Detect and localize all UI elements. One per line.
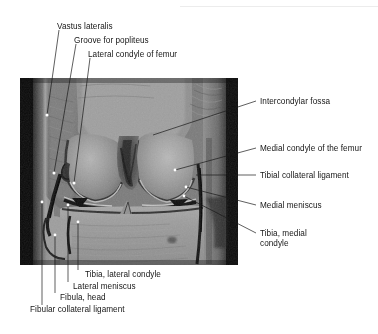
label-tibial-collateral-ligament: Tibial collateral ligament — [260, 171, 349, 181]
label-vastus-lateralis: Vastus lateralis — [57, 22, 113, 32]
label-fibular-collateral-ligament: Fibular collateral ligament — [30, 305, 125, 315]
label-groove-for-popliteus: Groove for popliteus — [74, 36, 149, 46]
label-intercondylar-fossa: Intercondylar fossa — [260, 97, 330, 107]
label-tibia-lateral-condyle: Tibia, lateral condyle — [85, 270, 161, 280]
label-lateral-condyle-of-femur: Lateral condyle of femur — [88, 50, 177, 60]
label-tibia-medial-condyle: Tibia, medial condyle — [260, 229, 330, 248]
mri-image-panel — [20, 78, 238, 265]
label-medial-meniscus: Medial meniscus — [260, 201, 322, 211]
label-fibula-head: Fibula, head — [60, 293, 106, 303]
scan-artifact-line — [180, 6, 378, 7]
label-medial-condyle-of-the-femur: Medial condyle of the femur — [260, 144, 362, 154]
label-lateral-meniscus: Lateral meniscus — [73, 282, 136, 292]
figure-coronal-knee-mri: Vastus lateralis Groove for popliteus La… — [0, 0, 378, 334]
